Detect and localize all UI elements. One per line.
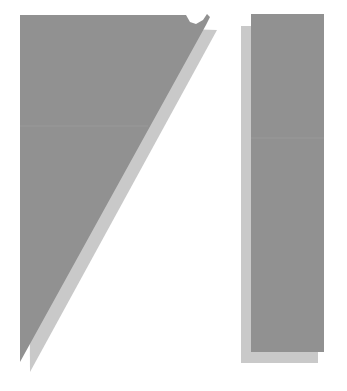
right-strip-shape [251, 14, 324, 352]
shapes-canvas [0, 0, 347, 391]
image-canvas-root: Two gray geometric paper shapes on white… [0, 0, 347, 391]
